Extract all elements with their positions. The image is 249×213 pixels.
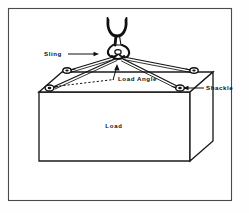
shackle-label: Shackle: [206, 84, 233, 91]
diagram-canvas: Sling Load Angle Shackle Load: [0, 0, 249, 213]
hook-shank: [115, 36, 116, 45]
load-angle-label: Load Angle: [118, 75, 157, 82]
hook-tip-right: [126, 18, 127, 20]
shackle-front-left-pin: [48, 87, 52, 89]
shackle-back-left-pin: [65, 69, 68, 71]
hook-tip-left: [108, 18, 109, 20]
shackle-front-right-pin: [178, 87, 182, 89]
load-label: Load: [105, 123, 123, 129]
master-link-eye: [115, 50, 121, 55]
rigging-diagram-figure: Sling Load Angle Shackle Load: [0, 0, 249, 213]
shackle-back-right-pin: [192, 69, 195, 71]
sling-label: Sling: [44, 50, 62, 57]
